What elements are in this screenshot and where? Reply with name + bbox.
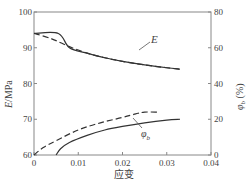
x-tick-label: 0.01 [70, 158, 86, 168]
chart-svg: 00.010.020.030.0460708090100020406080 E … [0, 0, 247, 182]
E-annotation: E [150, 33, 158, 45]
plot-frame [34, 12, 211, 155]
y-tick-label-left: 60 [23, 150, 33, 160]
y-tick-label-right: 0 [214, 150, 219, 160]
y-axis-label-right: φb (%) [234, 83, 247, 110]
series-line [34, 112, 158, 155]
axis-ticks [34, 12, 211, 155]
chart-container: 00.010.020.030.0460708090100020406080 E … [0, 0, 247, 182]
y-tick-label-right: 60 [214, 43, 224, 53]
series-line [34, 33, 180, 69]
y-tick-label-left: 90 [23, 43, 33, 53]
y-tick-label-right: 40 [214, 79, 224, 89]
y-tick-label-left: 100 [19, 7, 33, 17]
y-tick-label-right: 80 [214, 7, 224, 17]
data-series [34, 32, 180, 155]
series-line [34, 32, 180, 69]
y-axis-label-left: E/MPa [3, 80, 14, 109]
x-axis-label: 应变 [114, 168, 134, 180]
E-leader-line [139, 42, 150, 50]
y-tick-label-left: 70 [23, 114, 33, 124]
x-tick-label: 0.02 [115, 158, 131, 168]
phi-annotation: φb [141, 128, 151, 142]
series-line [56, 119, 180, 155]
x-tick-label: 0.03 [159, 158, 175, 168]
y-tick-label-left: 80 [23, 79, 33, 89]
y-tick-label-right: 20 [214, 114, 224, 124]
x-tick-label: 0 [32, 158, 37, 168]
